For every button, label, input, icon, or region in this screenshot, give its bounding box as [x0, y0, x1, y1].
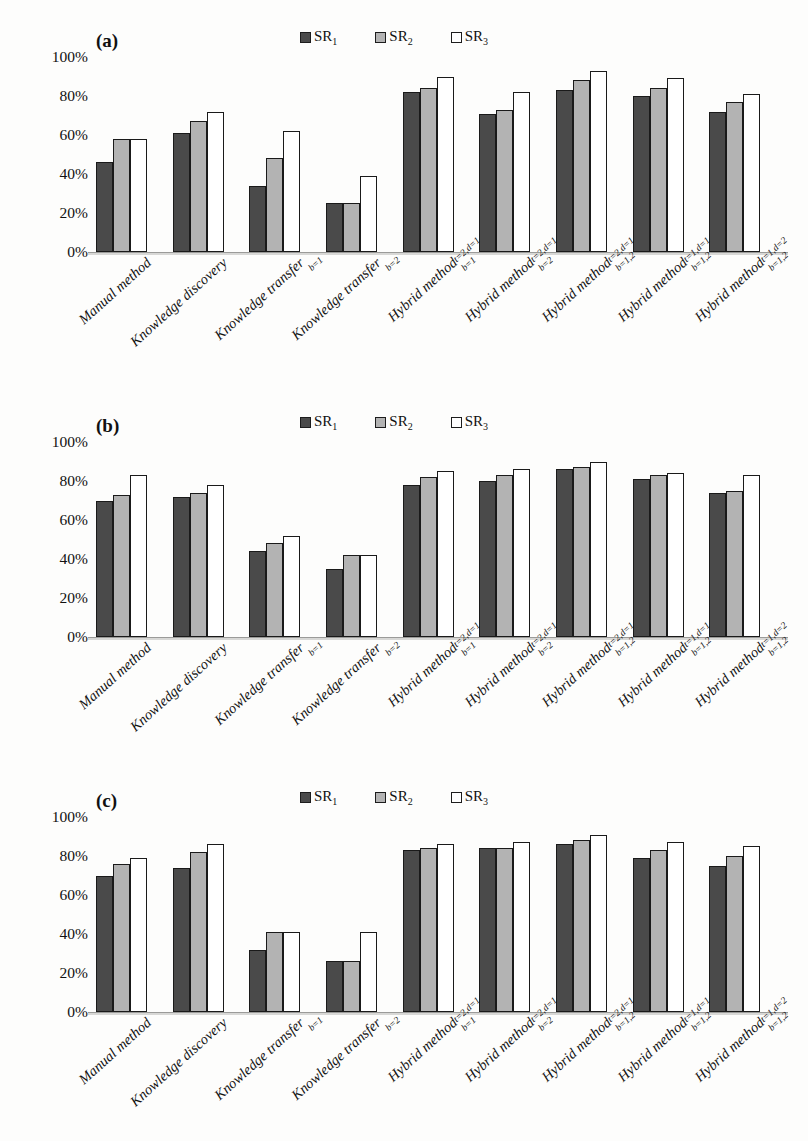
bar: [590, 462, 607, 638]
bar: [420, 88, 437, 252]
bar: [479, 848, 496, 1012]
bar: [496, 110, 513, 252]
bar: [249, 186, 266, 252]
legend-swatch-icon: [375, 792, 386, 803]
bar: [360, 555, 377, 637]
bar-group: [326, 817, 403, 1012]
legend-label-text: SR: [465, 413, 483, 429]
bar: [113, 139, 130, 252]
legend-label: SR2: [389, 413, 412, 432]
y-axis-tick-label: 100%: [32, 49, 88, 65]
bar: [130, 475, 147, 637]
bar-group: [326, 442, 403, 637]
legend-item: SR1: [300, 788, 337, 807]
bar: [266, 158, 283, 252]
bar: [266, 543, 283, 637]
bar: [249, 950, 266, 1012]
x-axis-label-slot: Hybrid methodt=1,d=2b=1,2: [757, 1015, 758, 1016]
bar: [573, 80, 590, 252]
bar: [709, 866, 726, 1012]
legend-swatch-icon: [451, 32, 462, 43]
legend-label: SR2: [389, 28, 412, 47]
legend-label-subscript: 1: [332, 796, 337, 807]
chart-legend: SR1SR2SR3: [300, 28, 488, 47]
legend-label-text: SR: [389, 28, 407, 44]
legend-label-text: SR: [389, 788, 407, 804]
bar: [633, 96, 650, 252]
y-axis-tick-label: 80%: [32, 473, 88, 489]
plot-area: [96, 817, 786, 1012]
x-axis-labels: Manual methodKnowledge discoveryKnowledg…: [96, 1015, 786, 1140]
bar: [513, 469, 530, 637]
bar: [207, 844, 224, 1012]
bar: [130, 139, 147, 252]
bar: [650, 88, 667, 252]
y-axis: 100%80%60%40%20%0%: [28, 817, 88, 1012]
legend-swatch-icon: [300, 792, 311, 803]
x-axis-label-subscript: b=2: [384, 255, 403, 273]
x-axis-label: Manual method: [76, 1015, 154, 1087]
bar: [403, 485, 420, 637]
bar-group: [249, 442, 326, 637]
bar-groups: [96, 442, 786, 637]
bar: [326, 961, 343, 1012]
bar-group: [96, 442, 173, 637]
x-axis-label-slot: Knowledge transferb=1: [297, 255, 298, 256]
x-axis-label-subscript: b=1: [307, 1015, 326, 1033]
x-axis-label-subscript: b=2: [384, 1015, 403, 1033]
bar: [667, 473, 684, 637]
bar: [726, 856, 743, 1012]
bar: [556, 469, 573, 637]
bar-group: [403, 817, 480, 1012]
bar: [420, 848, 437, 1012]
bar: [590, 835, 607, 1012]
x-axis-label-slot: Hybrid methodt=2,d=1b=2: [527, 1015, 528, 1016]
x-axis-label: Manual method: [76, 255, 154, 327]
bar: [496, 475, 513, 637]
bar: [650, 850, 667, 1012]
chart-panel: (a)SR1SR2SR3100%80%60%40%20%0%Manual met…: [0, 0, 808, 380]
x-axis-labels: Manual methodKnowledge discoveryKnowledg…: [96, 255, 786, 380]
y-axis-tick-label: 80%: [32, 88, 88, 104]
bar: [403, 850, 420, 1012]
y-axis-tick-label: 20%: [32, 965, 88, 981]
bar: [173, 497, 190, 637]
bar: [190, 121, 207, 252]
bar: [207, 112, 224, 252]
bar-group: [173, 817, 250, 1012]
y-axis-tick-label: 100%: [32, 809, 88, 825]
y-axis-tick-label: 100%: [32, 434, 88, 450]
x-axis-label-slot: Hybrid methodt=1,d=2b=1,2: [757, 640, 758, 641]
legend-label-subscript: 3: [483, 36, 488, 47]
bar: [343, 555, 360, 637]
bar: [96, 876, 113, 1013]
bar-group: [479, 817, 556, 1012]
bar: [633, 858, 650, 1012]
bar: [743, 475, 760, 637]
bar: [590, 71, 607, 252]
y-axis-tick-label: 40%: [32, 551, 88, 567]
bar-group: [709, 442, 786, 637]
x-axis-label-slot: Hybrid methodt=2,d=1b=1: [450, 255, 451, 256]
bar: [190, 852, 207, 1012]
bar: [709, 493, 726, 637]
chart-legend: SR1SR2SR3: [300, 788, 488, 807]
y-axis-tick-label: 60%: [32, 887, 88, 903]
bar-group: [403, 442, 480, 637]
bar: [96, 501, 113, 638]
bar: [743, 94, 760, 252]
bar: [726, 491, 743, 637]
chart-panel: (c)SR1SR2SR3100%80%60%40%20%0%Manual met…: [0, 760, 808, 1140]
bar-group: [633, 817, 710, 1012]
bar: [573, 840, 590, 1012]
bar: [420, 477, 437, 637]
legend-label-subscript: 2: [408, 421, 413, 432]
panel-label: (c): [96, 790, 117, 812]
panel-label: (b): [96, 415, 119, 437]
bar-group: [556, 817, 633, 1012]
legend-item: SR2: [375, 413, 412, 432]
legend-label: SR3: [465, 788, 488, 807]
bar: [266, 932, 283, 1012]
panel-label: (a): [96, 30, 118, 52]
x-axis-label-slot: Knowledge transferb=1: [297, 640, 298, 641]
